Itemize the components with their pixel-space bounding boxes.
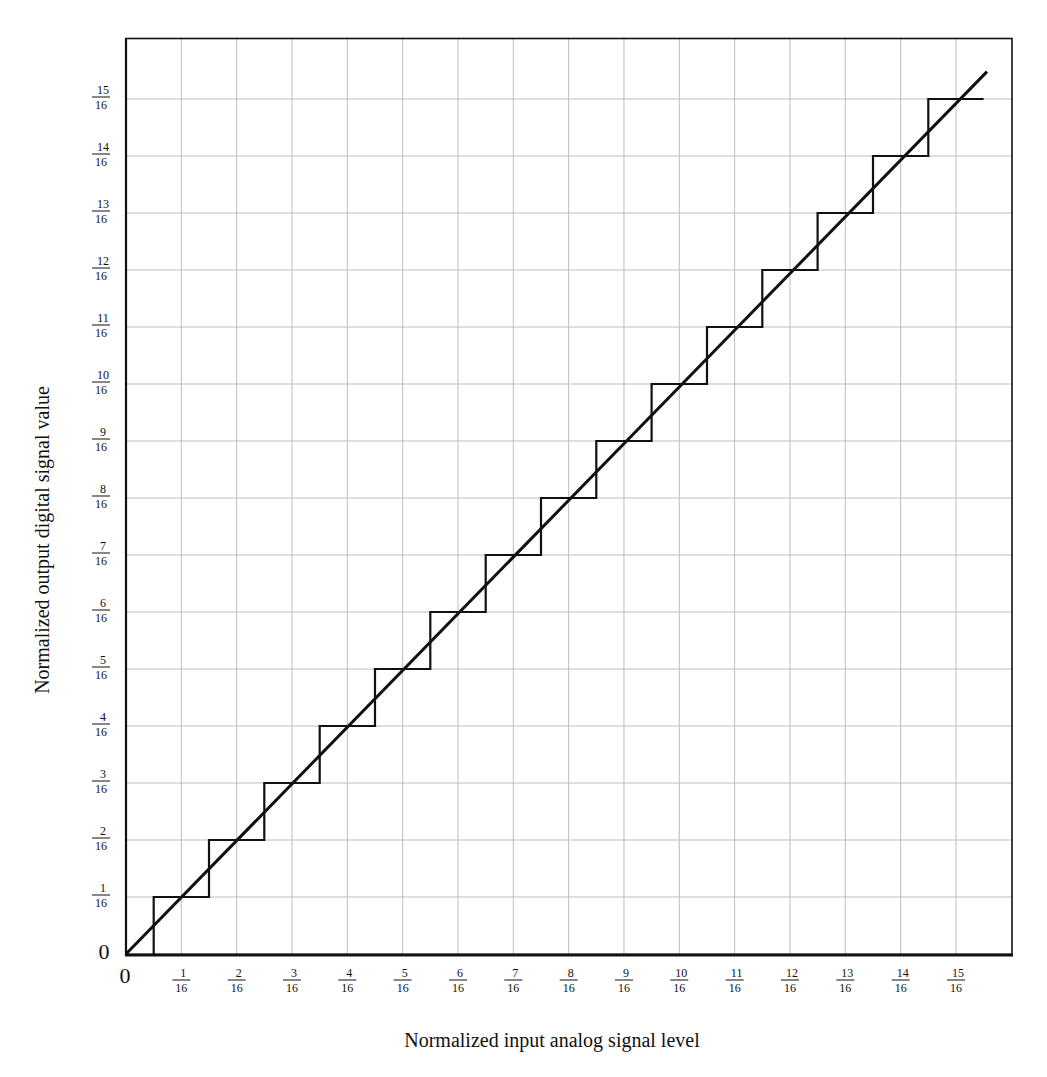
svg-text:16: 16 — [286, 981, 298, 995]
x-tick-label: 316 — [283, 966, 301, 995]
svg-text:16: 16 — [231, 981, 243, 995]
svg-text:16: 16 — [839, 981, 851, 995]
diagonal-line — [126, 72, 987, 954]
y-tick-label: 0 — [99, 939, 110, 964]
y-tick-label: 1516 — [92, 83, 110, 112]
y-tick-label: 516 — [92, 653, 110, 682]
y-tick-label: 1016 — [92, 368, 110, 397]
svg-text:9: 9 — [100, 425, 106, 439]
svg-text:10: 10 — [675, 966, 687, 980]
svg-text:15: 15 — [952, 966, 964, 980]
svg-text:4: 4 — [100, 710, 106, 724]
y-tick-label: 816 — [92, 482, 110, 511]
svg-text:16: 16 — [175, 981, 187, 995]
svg-text:16: 16 — [95, 782, 107, 796]
x-tick-label: 716 — [504, 966, 522, 995]
svg-text:6: 6 — [100, 596, 106, 610]
y-tick-label: 1116 — [92, 311, 110, 340]
y-tick-label: 116 — [92, 881, 110, 910]
svg-text:9: 9 — [623, 966, 629, 980]
x-tick-label: 516 — [394, 966, 412, 995]
svg-text:5: 5 — [402, 966, 408, 980]
x-tick-label: 116 — [172, 966, 190, 995]
x-tick-label: 616 — [449, 966, 467, 995]
svg-text:14: 14 — [897, 966, 909, 980]
y-tick-label: 716 — [92, 539, 110, 568]
svg-text:2: 2 — [236, 966, 242, 980]
y-axis-tick-labels: 0116216316416516616716816916101611161216… — [92, 83, 110, 964]
y-tick-label: 1316 — [92, 197, 110, 226]
y-tick-label: 416 — [92, 710, 110, 739]
svg-text:7: 7 — [100, 539, 106, 553]
svg-text:10: 10 — [97, 368, 109, 382]
svg-text:11: 11 — [731, 966, 743, 980]
svg-text:16: 16 — [95, 839, 107, 853]
quantization-chart: 0116216316416516616716816916101611161216… — [0, 0, 1047, 1077]
y-tick-label: 216 — [92, 824, 110, 853]
x-tick-label: 816 — [560, 966, 578, 995]
svg-text:16: 16 — [950, 981, 962, 995]
svg-text:16: 16 — [95, 155, 107, 169]
svg-text:2: 2 — [100, 824, 106, 838]
svg-text:16: 16 — [895, 981, 907, 995]
y-axis-title: Normalized output digital signal value — [31, 386, 54, 694]
y-tick-label: 1416 — [92, 140, 110, 169]
svg-text:3: 3 — [100, 767, 106, 781]
svg-text:11: 11 — [97, 311, 109, 325]
x-axis-tick-labels: 0116216316416516616716816916101611161216… — [120, 963, 965, 995]
x-axis-title: Normalized input analog signal level — [404, 1029, 700, 1052]
svg-text:16: 16 — [95, 383, 107, 397]
svg-text:16: 16 — [95, 896, 107, 910]
svg-text:12: 12 — [97, 254, 109, 268]
svg-text:16: 16 — [95, 554, 107, 568]
svg-text:12: 12 — [786, 966, 798, 980]
svg-text:6: 6 — [457, 966, 463, 980]
svg-text:8: 8 — [568, 966, 574, 980]
svg-text:16: 16 — [673, 981, 685, 995]
x-tick-label: 1016 — [670, 966, 688, 995]
svg-text:16: 16 — [95, 440, 107, 454]
svg-text:16: 16 — [563, 981, 575, 995]
x-tick-label: 1116 — [726, 966, 744, 995]
svg-text:16: 16 — [95, 611, 107, 625]
svg-text:16: 16 — [397, 981, 409, 995]
svg-text:5: 5 — [100, 653, 106, 667]
svg-text:14: 14 — [97, 140, 109, 154]
svg-text:16: 16 — [341, 981, 353, 995]
svg-text:15: 15 — [97, 83, 109, 97]
svg-text:16: 16 — [729, 981, 741, 995]
y-tick-label: 916 — [92, 425, 110, 454]
svg-text:8: 8 — [100, 482, 106, 496]
svg-text:16: 16 — [95, 326, 107, 340]
y-tick-label: 1216 — [92, 254, 110, 283]
svg-text:1: 1 — [100, 881, 106, 895]
x-tick-label: 1416 — [892, 966, 910, 995]
x-tick-label: 0 — [120, 963, 131, 988]
svg-text:3: 3 — [291, 966, 297, 980]
x-tick-label: 1316 — [836, 966, 854, 995]
svg-text:16: 16 — [618, 981, 630, 995]
data-series — [126, 72, 987, 954]
svg-text:13: 13 — [841, 966, 853, 980]
svg-text:0: 0 — [99, 939, 110, 964]
x-tick-label: 416 — [338, 966, 356, 995]
x-tick-label: 1216 — [781, 966, 799, 995]
svg-text:0: 0 — [120, 963, 131, 988]
svg-text:16: 16 — [452, 981, 464, 995]
svg-text:13: 13 — [97, 197, 109, 211]
svg-text:16: 16 — [95, 497, 107, 511]
svg-text:4: 4 — [346, 966, 352, 980]
svg-text:16: 16 — [95, 668, 107, 682]
x-tick-label: 216 — [228, 966, 246, 995]
svg-text:16: 16 — [95, 269, 107, 283]
svg-text:7: 7 — [512, 966, 518, 980]
svg-text:16: 16 — [95, 725, 107, 739]
x-tick-label: 916 — [615, 966, 633, 995]
svg-text:16: 16 — [784, 981, 796, 995]
svg-text:16: 16 — [507, 981, 519, 995]
x-tick-label: 1516 — [947, 966, 965, 995]
svg-text:16: 16 — [95, 98, 107, 112]
y-tick-label: 316 — [92, 767, 110, 796]
svg-text:1: 1 — [180, 966, 186, 980]
svg-text:16: 16 — [95, 212, 107, 226]
